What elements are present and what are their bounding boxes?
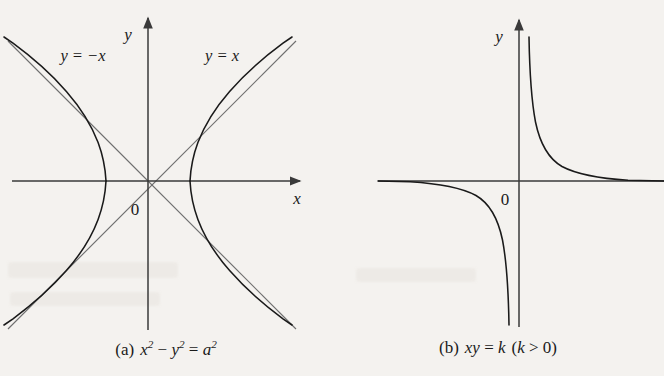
origin-label: 0	[501, 190, 510, 209]
x-axis-label: x	[292, 189, 301, 208]
caption-a-a-exp: 2	[211, 338, 217, 350]
caption-a-y: y	[171, 340, 179, 359]
y-axis-label: y	[493, 27, 503, 46]
caption-b-paren-close: )	[551, 338, 557, 357]
caption-a-x: x	[140, 340, 148, 359]
panel-hyperbola-b: y 0 (b)xy = k(k > 0)	[332, 0, 664, 376]
caption-a-x-exp: 2	[148, 338, 154, 350]
caption-a-a: a	[203, 340, 212, 359]
caption-a-y-exp: 2	[179, 338, 185, 350]
caption-b-k: k	[498, 338, 506, 357]
caption-b-prefix: (b)	[439, 338, 459, 357]
origin-label: 0	[131, 200, 140, 219]
asymptote-label-left: y = −x	[58, 46, 106, 65]
caption-b-cond-k: k	[517, 338, 525, 357]
curve-left-branch-lower	[4, 181, 106, 325]
plot-b: y 0	[332, 0, 664, 340]
plot-a: y x 0 y = −x y = x	[0, 0, 332, 340]
caption-b: (b)xy = k(k > 0)	[332, 338, 664, 358]
caption-b-xy: xy	[465, 338, 480, 357]
curve-first-quadrant-branch	[529, 37, 664, 181]
y-axis-label: y	[122, 25, 132, 44]
caption-a-prefix: (a)	[115, 340, 134, 359]
caption-a: (a)x2 − y2 = a2	[0, 338, 332, 360]
curve-third-quadrant-branch	[378, 181, 509, 325]
caption-b-equals: =	[484, 338, 494, 357]
curve-right-branch-lower	[190, 181, 292, 325]
caption-b-cond-gt: >	[529, 338, 539, 357]
figure-root: y x 0 y = −x y = x (a)x2 − y2 = a2	[0, 0, 664, 376]
caption-a-minus: −	[158, 340, 168, 359]
panel-hyperbola-a: y x 0 y = −x y = x (a)x2 − y2 = a2	[0, 0, 332, 376]
asymptote-label-right: y = x	[203, 46, 240, 65]
caption-a-equals: =	[189, 340, 199, 359]
